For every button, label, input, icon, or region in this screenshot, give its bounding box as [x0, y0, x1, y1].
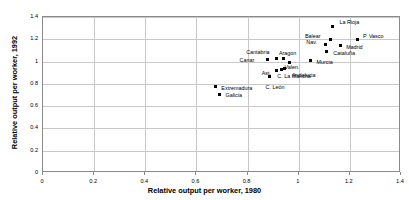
x-axis-tick-label: 1 — [286, 178, 310, 184]
data-point — [275, 69, 278, 72]
data-point — [218, 93, 221, 96]
x-axis-tick-mark — [195, 172, 196, 175]
data-point — [329, 38, 332, 41]
x-axis-tick-mark — [400, 172, 401, 175]
data-point — [331, 25, 334, 28]
x-axis-tick-label: 1.4 — [388, 178, 409, 184]
x-axis-tick-label: 0.4 — [132, 178, 156, 184]
x-axis-tick-mark — [298, 172, 299, 175]
data-point-label: C. León — [266, 84, 285, 90]
data-point-label: Canar. — [240, 57, 256, 63]
gridline-vertical — [299, 17, 300, 171]
gridline-vertical — [145, 17, 146, 171]
data-point — [214, 85, 217, 88]
x-axis-tick-mark — [42, 172, 43, 175]
data-point — [324, 43, 327, 46]
gridline-vertical — [248, 17, 249, 171]
data-point — [275, 57, 278, 60]
plot-area: La RiojaBalearP. VascoNav.MadridCataluña… — [42, 16, 400, 172]
data-point-label: Aragon — [279, 50, 296, 56]
gridline-horizontal — [43, 17, 399, 18]
data-point — [268, 75, 271, 78]
gridline-horizontal — [43, 62, 399, 63]
data-point-label: Extremadura — [221, 85, 252, 91]
gridline-horizontal — [43, 128, 399, 129]
data-point — [282, 57, 285, 60]
x-axis-tick-label: 0 — [30, 178, 54, 184]
y-axis-title: Relative output per worker, 1992 — [10, 13, 19, 173]
data-point — [325, 50, 328, 53]
x-axis-tick-mark — [144, 172, 145, 175]
gridline-horizontal — [43, 151, 399, 152]
data-point — [283, 67, 286, 70]
gridline-vertical — [350, 17, 351, 171]
x-axis-tick-mark — [93, 172, 94, 175]
data-point-label: Murcia — [316, 59, 332, 65]
x-axis-tick-label: 1.2 — [337, 178, 361, 184]
x-axis-tick-label: 0.6 — [183, 178, 207, 184]
data-point-label: C. La Mancha — [277, 73, 311, 79]
x-axis-tick-label: 0.2 — [81, 178, 105, 184]
scatter-chart: La RiojaBalearP. VascoNav.MadridCataluña… — [0, 0, 409, 200]
data-point-label: La Rioja — [339, 19, 359, 25]
data-point-label: Valen. — [285, 64, 300, 70]
data-point — [266, 58, 269, 61]
data-point — [339, 44, 342, 47]
data-point-label: Cataluña — [333, 50, 355, 56]
data-point — [280, 68, 283, 71]
data-point — [309, 59, 312, 62]
gridline-horizontal — [43, 39, 399, 40]
data-point-label: Nav. — [306, 39, 317, 45]
gridline-horizontal — [43, 106, 399, 107]
data-point-label: Cantabria — [246, 49, 269, 55]
x-axis-title: Relative output per worker, 1980 — [0, 186, 409, 195]
x-axis-tick-label: 0.8 — [235, 178, 259, 184]
gridline-vertical — [196, 17, 197, 171]
data-point-label: Galicia — [225, 92, 241, 98]
data-point-label: P. Vasco — [363, 33, 383, 39]
x-axis-tick-mark — [247, 172, 248, 175]
x-axis-tick-mark — [349, 172, 350, 175]
gridline-vertical — [94, 17, 95, 171]
data-point — [356, 38, 359, 41]
